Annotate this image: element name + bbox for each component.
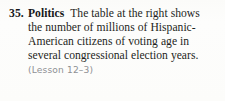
exercise-topic-label: Politics — [28, 7, 64, 20]
lesson-reference: (Lesson 12–3) — [28, 64, 215, 76]
exercise-number: 35. — [9, 7, 24, 21]
exercise-row: 35. PoliticsThe table at the right shows… — [9, 7, 215, 76]
exercise-body: PoliticsThe table at the right shows the… — [28, 7, 215, 63]
exercise-block: 35. PoliticsThe table at the right shows… — [0, 0, 225, 76]
scanned-page: 35. PoliticsThe table at the right shows… — [0, 0, 225, 101]
